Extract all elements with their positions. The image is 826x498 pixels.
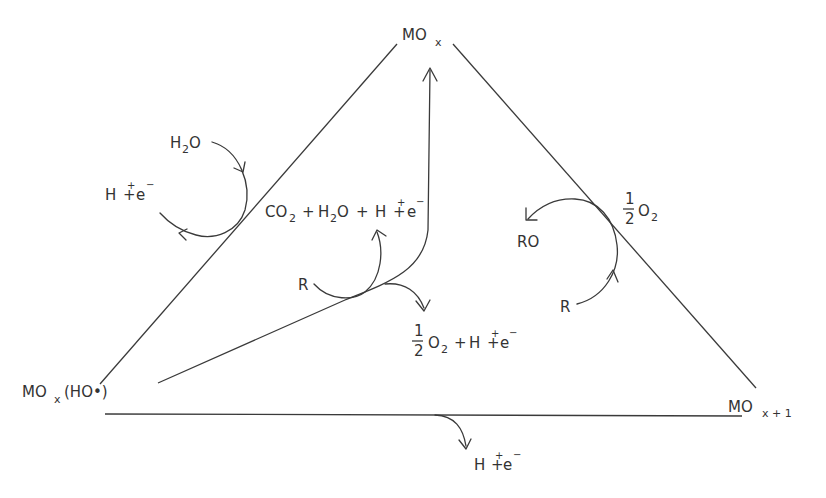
svg-text:H: H	[318, 203, 329, 221]
center-r-arrow	[314, 232, 381, 298]
edge-top-to-bottom-left	[100, 44, 397, 384]
svg-text:H: H	[375, 203, 386, 221]
svg-text:x: x	[435, 36, 442, 49]
svg-text:MO: MO	[402, 26, 427, 44]
left-cycle-input-h2o: H 2 O	[170, 134, 201, 156]
svg-text:−: −	[513, 449, 521, 460]
svg-text:+: +	[393, 203, 406, 221]
svg-text:+: +	[356, 203, 369, 221]
svg-text:x + 1: x + 1	[762, 407, 792, 420]
svg-text:2: 2	[625, 210, 635, 228]
svg-text:e: e	[136, 186, 145, 204]
svg-text:e: e	[500, 334, 509, 352]
svg-text:H: H	[105, 186, 116, 204]
center-reactant-r: R	[298, 276, 308, 294]
svg-text:e: e	[407, 203, 416, 221]
left-cycle-arc-arrow	[160, 142, 247, 236]
bottom-output-h-e: H + + e −	[474, 449, 521, 474]
svg-text:1: 1	[414, 322, 424, 340]
svg-text:MO: MO	[728, 398, 753, 416]
svg-text:x: x	[54, 393, 61, 406]
svg-text:+: +	[491, 456, 504, 474]
reaction-mechanism-diagram: MO x MO x (HO•) MO x + 1 H 2 O H + + e −…	[0, 0, 826, 498]
node-top: MO x	[402, 26, 442, 49]
edge-bottom	[105, 414, 742, 416]
svg-text:e: e	[503, 456, 512, 474]
arrowhead-icon	[526, 208, 537, 220]
svg-text:MO: MO	[22, 383, 47, 401]
svg-text:+: +	[454, 334, 467, 352]
svg-text:2: 2	[441, 343, 448, 356]
svg-text:2: 2	[651, 211, 658, 224]
svg-text:H: H	[474, 456, 485, 474]
svg-text:2: 2	[414, 342, 424, 360]
svg-text:1: 1	[625, 190, 635, 208]
pathway-to-top-arrow	[158, 70, 430, 383]
svg-text:2: 2	[289, 212, 296, 225]
svg-text:O: O	[337, 203, 349, 221]
svg-text:−: −	[146, 179, 154, 190]
svg-text:H: H	[170, 134, 181, 152]
arrowhead-icon	[179, 229, 187, 240]
svg-text:O: O	[189, 134, 201, 152]
left-cycle-output-h-e: H + + e −	[105, 179, 154, 204]
svg-text:O: O	[428, 334, 440, 352]
right-cycle-output-ro: RO	[517, 233, 539, 251]
svg-text:2: 2	[182, 143, 189, 156]
svg-text:−: −	[416, 196, 424, 207]
center-product-top: CO 2 + H 2 O + H + + e −	[265, 196, 424, 225]
svg-text:+: +	[302, 203, 315, 221]
bottom-arrow	[435, 415, 466, 446]
node-bottom-right: MO x + 1	[728, 398, 792, 420]
svg-text:H: H	[469, 334, 480, 352]
svg-text:O: O	[638, 202, 650, 220]
right-cycle-oxygen: 1 2 O 2	[623, 190, 658, 228]
node-bottom-left: MO x (HO•)	[22, 383, 108, 406]
right-cycle-input-r: R	[560, 298, 570, 316]
svg-text:−: −	[509, 327, 517, 338]
svg-text:2: 2	[330, 212, 337, 225]
arrowhead-icon	[234, 162, 245, 172]
svg-text:CO: CO	[265, 203, 287, 221]
center-product-bottom: 1 2 O 2 + H + + e −	[412, 322, 517, 360]
svg-text:(HO•): (HO•)	[64, 383, 108, 401]
svg-text:+: +	[123, 186, 136, 204]
svg-text:+: +	[487, 334, 500, 352]
